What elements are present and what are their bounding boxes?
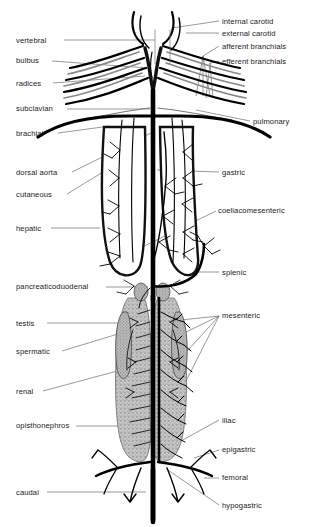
label-splenic: splenic (222, 268, 246, 277)
vessel-bulbus-arteriosus (145, 48, 161, 90)
label-hepatic: hepatic (16, 224, 41, 233)
label-caudal: caudal (16, 488, 39, 497)
leader-brachial (58, 126, 110, 133)
vessel-hypogastric-right (167, 468, 184, 502)
vessel-internal-carotid-right (163, 12, 174, 44)
label-efferent-branchials: efferent branchials (222, 57, 286, 66)
leader-afferent (203, 46, 219, 56)
label-epigastric: epigastric (222, 445, 256, 454)
label-gastric: gastric (222, 168, 245, 177)
liver-left-lobe (102, 127, 145, 275)
label-dorsal-aorta: dorsal aorta (16, 168, 57, 177)
vessel-hypogastric-left (124, 468, 141, 502)
label-pulmonary: pulmonary (253, 117, 289, 126)
label-hypogastric: hypogastric (222, 501, 262, 510)
label-brachial: brachial (16, 129, 43, 138)
anatomical-diagram-figure: vertebral bulbus radices subclavian brac… (0, 0, 312, 527)
leader-cutaneous (67, 172, 103, 194)
label-bulbus: bulbus (16, 56, 39, 65)
label-radices: radices (16, 79, 41, 88)
vessel-femoral-left (104, 470, 116, 494)
label-coeliacomesenteric: coeliacomesenteric (218, 206, 285, 215)
vessel-epigastric-left (92, 450, 118, 468)
label-pancreaticoduodenal: pancreaticoduodenal (16, 282, 88, 291)
label-vertebral: vertebral (16, 36, 46, 45)
label-testis: testis (16, 319, 34, 328)
label-spermatic: spermatic (16, 347, 50, 356)
vessel-iliac-left (96, 462, 150, 476)
splenic-twig-1 (204, 238, 220, 254)
diagram-illustration (0, 0, 312, 527)
vessel-iliac-right (158, 462, 212, 476)
label-subclavian: subclavian (16, 104, 53, 113)
label-femoral: femoral (222, 473, 248, 482)
label-external-carotid: external carotid (222, 29, 276, 38)
vessel-epigastric-right (190, 450, 216, 468)
label-cutaneous: cutaneous (16, 190, 52, 199)
label-opisthonephros: opisthonephros (16, 421, 69, 430)
label-afferent-branchials: afferent branchials (222, 42, 286, 51)
label-iliac: iliac (222, 416, 236, 425)
label-internal-carotid: internal carotid (222, 17, 273, 26)
label-mesenteric: mesenteric (222, 311, 260, 320)
label-renal: renal (16, 387, 33, 396)
